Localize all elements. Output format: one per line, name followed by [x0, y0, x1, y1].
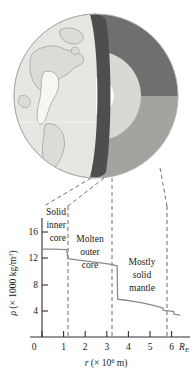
y-tick-label-16: 16 — [29, 227, 39, 237]
label-mantle-line3: mantle — [129, 283, 155, 293]
x-tick-label-3: 3 — [104, 342, 109, 352]
x-axis-title: r (× 106 m) — [85, 357, 128, 369]
y-axis-title: ρ (× 1000 kg/m3) — [7, 250, 19, 316]
x-tick-label-6: 6 — [169, 342, 174, 352]
earth-density-figure: 16 12 8 4 0 1 2 3 4 5 6 RE Solid inner c… — [0, 0, 196, 373]
label-mantle-line2: solid — [133, 270, 152, 280]
figure-canvas: 16 12 8 4 0 1 2 3 4 5 6 RE Solid inner c… — [0, 0, 196, 373]
label-inner-core-line1: Solid — [46, 207, 66, 217]
x-axis-end-label-RE: RE — [178, 342, 189, 353]
y-axis-ticks — [42, 232, 48, 311]
x-tick-label-4: 4 — [126, 342, 131, 352]
density-curve — [42, 249, 180, 315]
density-radius-chart: 16 12 8 4 0 1 2 3 4 5 6 RE Solid inner c… — [7, 206, 190, 369]
label-outer-core-line2: outer — [80, 247, 100, 257]
leader-line-2 — [68, 178, 104, 206]
label-mantle-line1: Mostly — [129, 257, 156, 267]
x-tick-label-0: 0 — [32, 342, 37, 352]
x-axis-ticks — [42, 331, 172, 337]
label-inner-core-line3: core — [50, 233, 66, 243]
label-outer-core-line1: Molten — [76, 234, 104, 244]
y-tick-label-12: 12 — [29, 253, 39, 263]
x-tick-label-1: 1 — [61, 342, 66, 352]
x-tick-label-5: 5 — [148, 342, 153, 352]
y-tick-label-8: 8 — [33, 280, 38, 290]
y-tick-label-4: 4 — [33, 306, 38, 316]
x-tick-label-2: 2 — [83, 342, 88, 352]
leader-line-4 — [160, 168, 167, 206]
leader-line-1 — [44, 178, 91, 206]
earth-cutaway — [14, 14, 178, 178]
label-inner-core-line2: inner — [46, 220, 66, 230]
island-caribbean — [71, 47, 79, 54]
label-outer-core-line3: core — [82, 260, 98, 270]
